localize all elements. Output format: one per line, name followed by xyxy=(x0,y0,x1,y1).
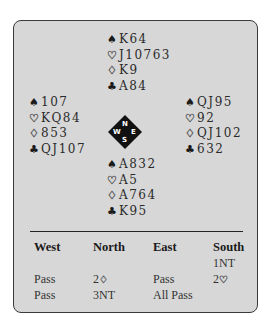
south-hearts-cards: A5 xyxy=(119,173,138,187)
south-clubs: ♣K95 xyxy=(107,204,157,220)
bidding-header-west: West xyxy=(34,240,60,255)
north-diamonds-cards: K9 xyxy=(119,63,139,77)
heart-icon: ♡ xyxy=(219,274,228,285)
south-clubs-cards: K95 xyxy=(119,204,148,218)
bid-south-2: 2♡ xyxy=(213,272,228,287)
compass-north-label: N xyxy=(122,121,128,128)
club-icon: ♣ xyxy=(107,204,119,220)
compass-east-label: E xyxy=(131,129,136,136)
bid-north-2: 2♢ xyxy=(93,272,108,287)
spade-icon: ♠ xyxy=(107,157,119,173)
south-diamonds-cards: A764 xyxy=(119,188,157,202)
bid-east-2: Pass xyxy=(153,272,174,287)
south-spades: ♠A832 xyxy=(107,157,157,173)
west-spades-cards: 107 xyxy=(41,95,68,109)
diamond-icon: ♢ xyxy=(99,274,108,285)
south-diamonds: ♢A764 xyxy=(107,188,157,204)
bid-east-3: All Pass xyxy=(153,288,193,303)
north-hearts: ♡J10763 xyxy=(107,48,171,64)
bid-north-3: 3NT xyxy=(93,288,115,303)
club-icon: ♣ xyxy=(29,142,41,158)
east-clubs: ♣632 xyxy=(185,142,242,158)
compass-west-label: W xyxy=(113,129,121,136)
south-hand: ♠A832 ♡A5 ♢A764 ♣K95 xyxy=(107,157,157,219)
diamond-icon: ♢ xyxy=(29,126,41,142)
compass-rose-icon: N E S W xyxy=(108,115,142,149)
east-diamonds-cards: QJ102 xyxy=(197,126,242,140)
bidding-header-east: East xyxy=(153,240,177,255)
north-diamonds: ♢K9 xyxy=(107,63,171,79)
west-diamonds: ♢853 xyxy=(29,126,86,142)
heart-icon: ♡ xyxy=(107,173,119,189)
bid-west-3: Pass xyxy=(34,288,55,303)
north-spades: ♠K64 xyxy=(107,32,171,48)
south-spades-cards: A832 xyxy=(119,157,157,171)
bidding-divider xyxy=(30,231,243,232)
east-spades: ♠QJ95 xyxy=(185,95,242,111)
north-hand: ♠K64 ♡J10763 ♢K9 ♣A84 xyxy=(107,32,171,94)
bidding-header-south: South xyxy=(213,240,244,255)
diamond-icon: ♢ xyxy=(107,63,119,79)
west-spades: ♠107 xyxy=(29,95,86,111)
north-hearts-cards: J10763 xyxy=(119,48,171,62)
south-hearts: ♡A5 xyxy=(107,173,157,189)
west-hand: ♠107 ♡KQ84 ♢853 ♣QJ107 xyxy=(29,95,86,157)
spade-icon: ♠ xyxy=(107,32,119,48)
spade-icon: ♠ xyxy=(185,95,197,111)
heart-icon: ♡ xyxy=(107,48,119,64)
heart-icon: ♡ xyxy=(185,111,197,127)
diamond-icon: ♢ xyxy=(107,188,119,204)
heart-icon: ♡ xyxy=(29,111,41,127)
west-clubs-cards: QJ107 xyxy=(41,142,86,156)
east-spades-cards: QJ95 xyxy=(197,95,233,109)
north-clubs-cards: A84 xyxy=(119,79,147,93)
east-hearts: ♡92 xyxy=(185,111,242,127)
east-clubs-cards: 632 xyxy=(197,142,224,156)
east-hearts-cards: 92 xyxy=(197,111,215,125)
west-hearts-cards: KQ84 xyxy=(41,111,81,125)
west-diamonds-cards: 853 xyxy=(41,126,68,140)
bidding-header-north: North xyxy=(93,240,125,255)
club-icon: ♣ xyxy=(107,79,119,95)
west-hearts: ♡KQ84 xyxy=(29,111,86,127)
west-clubs: ♣QJ107 xyxy=(29,142,86,158)
club-icon: ♣ xyxy=(185,142,197,158)
north-clubs: ♣A84 xyxy=(107,79,171,95)
east-diamonds: ♢QJ102 xyxy=(185,126,242,142)
north-spades-cards: K64 xyxy=(119,32,148,46)
spade-icon: ♠ xyxy=(29,95,41,111)
east-hand: ♠QJ95 ♡92 ♢QJ102 ♣632 xyxy=(185,95,242,157)
bid-west-2: Pass xyxy=(34,272,55,287)
compass-south-label: S xyxy=(122,137,127,144)
diamond-icon: ♢ xyxy=(185,126,197,142)
bid-south-1: 1NT xyxy=(213,256,235,271)
